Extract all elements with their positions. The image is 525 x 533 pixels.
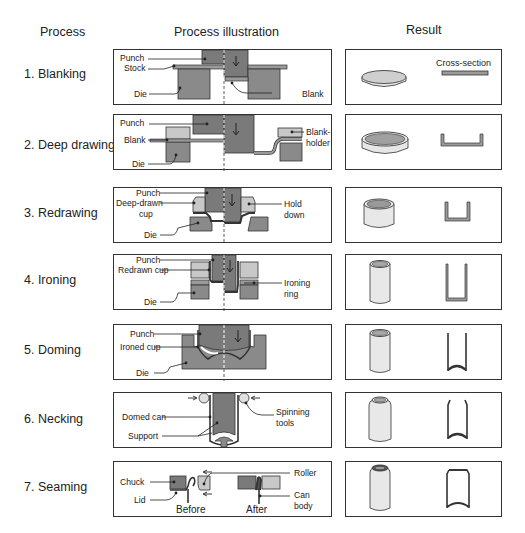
process-label-redrawing: 3. Redrawing xyxy=(24,206,98,220)
process-label-blanking: 1. Blanking xyxy=(24,67,86,81)
process-label-deep-drawing: 2. Deep drawing xyxy=(24,138,115,152)
label-after: After xyxy=(246,504,268,515)
process-label-ironing: 4. Ironing xyxy=(24,273,76,287)
callout-redrawn-cup: Redrawn cup xyxy=(118,265,169,275)
callout-die: Die xyxy=(136,368,149,378)
cross-section-shape xyxy=(448,366,466,370)
callout-roller: Roller xyxy=(294,468,317,478)
svg-text:cup: cup xyxy=(139,209,153,219)
callout-lid: Lid xyxy=(134,495,146,505)
cross-section-shape xyxy=(441,134,483,146)
callout-blankholder: Blank- xyxy=(306,127,330,137)
domed-can-shape xyxy=(370,333,390,373)
callout-punch: Punch xyxy=(120,118,145,128)
result-doming xyxy=(345,324,502,380)
result-deep-drawing xyxy=(345,114,502,170)
header-result: Result xyxy=(406,23,441,37)
illustration-seaming: Chuck Lid Roller Can body Before After xyxy=(113,461,332,517)
result-ironing xyxy=(345,254,502,310)
result-necking xyxy=(345,392,502,448)
callout-die: Die xyxy=(134,89,147,99)
label-before: Before xyxy=(176,504,206,515)
illustration-blanking: Punch Stock Die Blank xyxy=(113,49,332,105)
callout-hold-down: Hold xyxy=(284,199,302,209)
result-blanking: Cross-section xyxy=(345,49,502,105)
process-label-seaming: 7. Seaming xyxy=(24,480,87,494)
process-label-necking: 6. Necking xyxy=(24,412,83,426)
callout-punch: Punch xyxy=(120,53,145,63)
callout-blank: Blank xyxy=(302,89,324,99)
callout-spinning-tools: Spinning xyxy=(276,407,310,417)
cross-section-shape xyxy=(442,71,488,75)
punch-shape xyxy=(202,50,224,64)
callout-ironed-cup: Ironed cup xyxy=(120,342,161,352)
svg-text:holder: holder xyxy=(306,138,330,148)
svg-text:ring: ring xyxy=(284,289,299,299)
spinning-tool-icon xyxy=(239,393,249,403)
svg-text:tools: tools xyxy=(276,418,294,428)
cross-section-shape xyxy=(448,434,467,438)
callout-die: Die xyxy=(144,230,157,240)
svg-text:body: body xyxy=(294,501,313,511)
illustration-doming: Punch Ironed cup Die xyxy=(113,324,332,380)
arrow-left-icon xyxy=(251,396,260,400)
callout-punch: Punch xyxy=(136,255,161,265)
callout-stock: Stock xyxy=(124,63,146,73)
necked-can-shape xyxy=(369,400,391,442)
callout-die: Die xyxy=(132,159,145,169)
callout-ironing-ring: Ironing xyxy=(284,278,310,288)
callout-deep-drawn-cup: Deep-drawn xyxy=(116,198,163,208)
callout-domed-can: Domed can xyxy=(122,412,166,422)
illustration-deep-drawing: Punch Blank Die Blank- holder xyxy=(113,114,332,170)
callout-support: Support xyxy=(128,431,159,441)
cross-section-shape xyxy=(446,264,467,301)
callout-punch: Punch xyxy=(136,188,161,198)
seamed-can-shape xyxy=(370,468,390,511)
cross-section-label: Cross-section xyxy=(436,58,491,68)
callout-punch: Punch xyxy=(130,329,155,339)
callout-chuck: Chuck xyxy=(120,477,145,487)
header-process: Process xyxy=(40,25,85,39)
result-seaming xyxy=(345,461,502,517)
illustration-necking: Domed can Support Spinning tools xyxy=(113,392,332,448)
tall-cylinder-shape xyxy=(370,264,390,304)
illustration-ironing: Punch Redrawn cup Die Ironing ring xyxy=(113,254,332,310)
process-label-doming: 5. Doming xyxy=(24,343,81,357)
header-process-illustration: Process illustration xyxy=(174,25,279,39)
result-redrawing xyxy=(345,187,502,243)
illustration-redrawing: Punch Deep-drawn cup Die Hold down xyxy=(113,187,332,243)
cross-section-shape xyxy=(447,503,469,507)
svg-text:down: down xyxy=(284,210,305,220)
callout-die: Die xyxy=(144,297,157,307)
callout-blank: Blank xyxy=(124,135,146,145)
spinning-tool-icon xyxy=(199,393,209,403)
cross-section-shape xyxy=(445,202,470,221)
callout-can-body: Can xyxy=(294,490,310,500)
arrow-right-icon xyxy=(188,396,197,400)
